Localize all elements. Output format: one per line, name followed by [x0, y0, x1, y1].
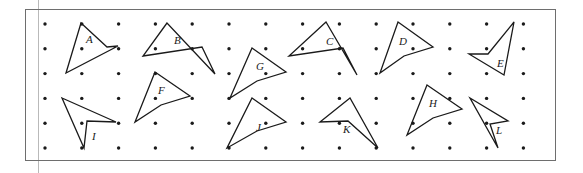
shape-label-e: E	[497, 58, 504, 69]
shape-label-b: B	[174, 35, 181, 46]
shape-label-g: G	[256, 61, 264, 72]
shape-label-d: D	[399, 36, 407, 47]
shape-label-layer: ABCDEFGHIJKL	[0, 0, 583, 173]
worksheet-page: ABCDEFGHIJKL	[0, 0, 583, 173]
shape-label-c: C	[326, 36, 333, 47]
shape-label-h: H	[429, 98, 437, 109]
shape-label-a: A	[86, 34, 93, 45]
shape-label-j: J	[256, 122, 261, 133]
shape-label-l: L	[496, 125, 502, 136]
shape-label-i: I	[92, 131, 96, 142]
shape-label-f: F	[158, 85, 165, 96]
shape-label-k: K	[343, 124, 350, 135]
